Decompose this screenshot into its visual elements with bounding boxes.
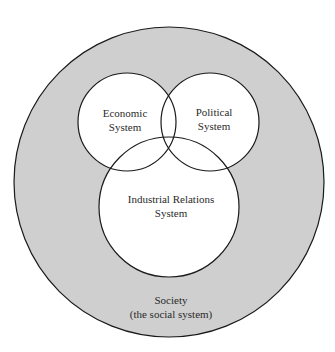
economic-system-label-line2: System [109, 121, 142, 133]
political-system-label-line2: System [198, 120, 231, 132]
society-label-line2: (the social system) [130, 308, 213, 321]
economic-system-label-line1: Economic [103, 107, 148, 119]
political-system-label-line1: Political [196, 106, 233, 118]
industrial-relations-label-line1: Industrial Relations [128, 193, 214, 205]
society-label-line1: Society [155, 294, 188, 306]
industrial-relations-label-line2: System [155, 207, 188, 219]
industrial-relations-venn-diagram: Economic System Political System Industr… [0, 0, 335, 352]
